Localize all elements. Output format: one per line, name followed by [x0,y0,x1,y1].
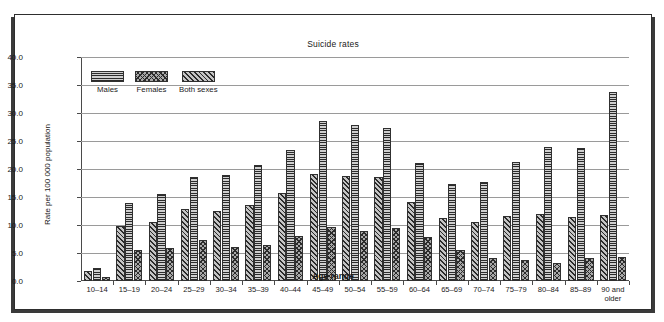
y-axis-tick-label: 15.0 [0,193,23,202]
gridline [81,57,629,58]
bar-males-4 [222,175,230,281]
bar-both-sexes-9 [374,177,382,281]
y-axis-tick-mark [77,141,81,142]
y-axis-tick-label: 35.0 [0,81,23,90]
x-axis-tick-label: 25–29 [178,285,210,294]
bar-both-sexes-5 [245,205,253,281]
legend-swatch-females-icon [135,71,168,82]
bar-males-5 [254,165,262,281]
bar-both-sexes-6 [278,193,286,281]
y-axis-tick-mark [77,197,81,198]
bar-males-16 [609,92,617,281]
x-axis-tick-label: 85–89 [565,285,597,294]
y-axis-tick-mark [77,113,81,114]
x-axis-tick-label: 40–44 [274,285,306,294]
x-axis-tick-label: 30–34 [210,285,242,294]
legend-swatch-both-sexes-icon [182,71,215,82]
bar-males-15 [577,148,585,281]
figure-container: Suicide rates Rate per 100 000 populatio… [0,0,664,322]
legend-swatch-males-icon [91,71,124,82]
y-axis-tick-label: 40.0 [0,53,23,62]
y-axis-tick-mark [77,253,81,254]
legend-item-males: Males [91,71,124,94]
x-axis-tick-label: 15–19 [113,285,145,294]
legend-label-females: Females [137,85,167,94]
bar-males-14 [544,147,552,281]
x-axis-tick-label: 60–64 [403,285,435,294]
bar-males-7 [319,121,327,281]
x-axis-tick-label: 10–14 [81,285,113,294]
legend-label-both-sexes: Both sexes [179,85,218,94]
bar-males-8 [351,125,359,281]
figure-frame-inner: Suicide rates Rate per 100 000 populatio… [19,19,647,305]
bar-both-sexes-7 [310,174,318,281]
bar-males-11 [448,184,456,281]
bar-males-12 [480,182,488,281]
x-axis-tick-label: 75–79 [500,285,532,294]
figure-frame: Suicide rates Rate per 100 000 populatio… [14,14,652,310]
legend: Males Females Both sexes [91,71,218,94]
y-axis-tick-mark [77,281,81,282]
x-axis-tick-label: 20–24 [145,285,177,294]
x-axis-tick-label: 35–39 [242,285,274,294]
x-axis-tick-label: 65–69 [436,285,468,294]
x-axis-tick-label: 90 and older [597,285,629,303]
legend-item-females: Females [135,71,168,94]
bar-males-1 [125,203,133,281]
x-axis-label: Age range [19,271,647,281]
y-axis-tick-mark [77,169,81,170]
bar-males-2 [157,194,165,281]
legend-label-males: Males [97,85,118,94]
x-axis-tick-label: 55–59 [371,285,403,294]
x-axis-tick-label: 50–54 [339,285,371,294]
legend-item-both-sexes: Both sexes [179,71,218,94]
y-axis-tick-label: 10.0 [0,221,23,230]
y-axis-tick-label: 5.0 [0,249,23,258]
y-axis-tick-mark [77,225,81,226]
y-axis-label: Rate per 100 000 population [43,124,52,225]
x-axis-tick-label: 70–74 [468,285,500,294]
bar-males-10 [415,163,423,281]
y-axis-tick-label: 20.0 [0,165,23,174]
x-axis-tick-mark [629,281,630,285]
chart-title: Suicide rates [19,39,647,49]
y-axis-tick-label: 30.0 [0,109,23,118]
y-axis-tick-label: 25.0 [0,137,23,146]
y-axis-tick-mark [77,57,81,58]
x-axis-tick-label: 80–84 [532,285,564,294]
bar-both-sexes-10 [407,202,415,281]
gridline [81,113,629,114]
bar-males-6 [286,150,294,281]
bar-males-13 [512,162,520,281]
x-axis-tick-label: 45–49 [307,285,339,294]
bar-males-9 [383,128,391,281]
y-axis-tick-mark [77,85,81,86]
bar-males-3 [190,177,198,281]
bar-both-sexes-8 [342,176,350,281]
